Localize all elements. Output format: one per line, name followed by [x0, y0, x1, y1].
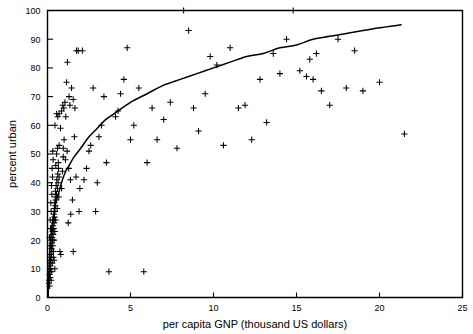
y-tick-label: 60: [30, 121, 40, 131]
y-tick-label: 70: [30, 92, 40, 102]
x-tick-label: 15: [291, 303, 301, 313]
y-tick-label: 40: [30, 178, 40, 188]
y-tick-label: 100: [25, 6, 40, 16]
x-tick-label: 10: [208, 303, 218, 313]
y-tick-label: 90: [30, 35, 40, 45]
x-axis-title: per capita GNP (thousand US dollars): [163, 318, 347, 330]
figure-background: [0, 0, 473, 334]
x-tick-label: 20: [374, 303, 384, 313]
y-tick-label: 50: [30, 149, 40, 159]
y-tick-label: 10: [30, 264, 40, 274]
x-tick-label: 0: [45, 303, 50, 313]
x-tick-label: 5: [128, 303, 133, 313]
y-axis-title: percent urban: [6, 120, 18, 188]
x-tick-label: 25: [457, 303, 467, 313]
y-tick-label: 0: [35, 293, 40, 303]
scatter-plot-figure: 0102030405060708090100 0510152025 percen…: [0, 0, 473, 334]
y-tick-label: 20: [30, 236, 40, 246]
y-tick-label: 80: [30, 63, 40, 73]
y-tick-label: 30: [30, 207, 40, 217]
